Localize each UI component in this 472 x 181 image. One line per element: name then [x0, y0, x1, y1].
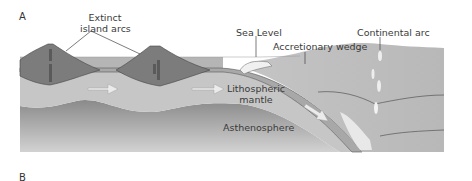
- label-extinct-island-arcs: Extinct island arcs: [80, 12, 130, 34]
- panel-label-a: A: [19, 11, 26, 22]
- label-continental-arc: Continental arc: [357, 27, 430, 38]
- label-sea-level: Sea Level: [236, 27, 282, 38]
- label-lithospheric-mantle: Lithospheric mantle: [226, 83, 286, 105]
- magma-blob: [377, 80, 381, 92]
- conduit: [157, 60, 160, 80]
- label-line: mantle: [226, 94, 286, 105]
- conduit: [49, 64, 52, 82]
- conduit: [49, 49, 52, 61]
- magma-blob: [378, 51, 382, 61]
- label-line: island arcs: [80, 23, 130, 34]
- panel-label-b: B: [19, 172, 26, 181]
- label-line: Extinct: [80, 12, 130, 23]
- leader-line: [66, 31, 91, 51]
- magma-blob: [374, 102, 378, 114]
- label-accretionary-wedge: Accretionary wedge: [273, 41, 367, 52]
- magma-blob: [372, 69, 375, 79]
- label-line: Lithospheric: [226, 83, 286, 94]
- conduit: [153, 64, 156, 74]
- leader-line: [91, 31, 140, 54]
- label-asthenosphere: Asthenosphere: [223, 122, 294, 133]
